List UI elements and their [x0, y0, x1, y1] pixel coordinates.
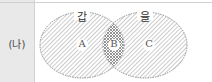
region-c-label: C — [143, 38, 155, 49]
set-eul-label: 을 — [137, 8, 153, 24]
venn-diagram — [0, 0, 212, 82]
set-gap-label: 갑 — [74, 8, 90, 24]
diagram-row: (나) 갑 을 A B C — [0, 0, 212, 82]
region-a-label: A — [76, 38, 88, 49]
region-b-label: B — [108, 38, 120, 49]
